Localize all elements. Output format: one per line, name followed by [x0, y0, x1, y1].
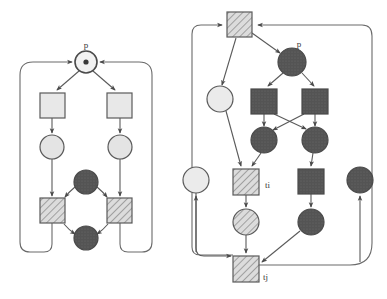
- transition-hatched-left[interactable]: [40, 198, 65, 223]
- edge-p-to-t-left: [57, 71, 79, 90]
- label-transition-tj: tj: [263, 272, 268, 282]
- edge-dark-lower-right-to-tj: [262, 231, 300, 262]
- place-light-left[interactable]: [40, 135, 64, 159]
- edge-dark-top-to-hatched-left: [65, 187, 75, 197]
- place-hatched-lower[interactable]: [233, 209, 259, 235]
- transition-hatched-right[interactable]: [107, 198, 132, 223]
- edge-hatched-right-to-dark-bottom: [97, 224, 108, 234]
- label-transition-ti: ti: [265, 180, 271, 190]
- left-petri-net: p: [20, 40, 152, 252]
- token-dot: [83, 59, 88, 64]
- transition-tj[interactable]: [233, 256, 259, 282]
- place-dark-lower-right[interactable]: [298, 209, 324, 235]
- figure-root: p: [0, 0, 387, 299]
- right-loop-left-rail: [192, 25, 233, 255]
- place-p-dark[interactable]: [278, 48, 306, 76]
- edge-p-to-dark-square-right: [302, 73, 314, 86]
- edge-top-transition-to-light-place: [222, 38, 236, 85]
- edge-p-to-t-right: [93, 71, 115, 90]
- edge-dark-mid-right-down: [311, 153, 313, 166]
- transition-light-right[interactable]: [107, 93, 132, 118]
- edge-p-to-dark-square-left: [268, 73, 283, 86]
- transition-dark-lower-right[interactable]: [298, 169, 324, 194]
- edge-hatched-left-to-dark-bottom: [64, 224, 75, 234]
- transition-hatched-top[interactable]: [227, 12, 252, 37]
- place-light-upper-left[interactable]: [207, 86, 233, 112]
- edge-dark-top-to-hatched-right: [97, 187, 107, 197]
- edge-top-transition-to-p: [252, 33, 280, 53]
- place-dark-mid-right[interactable]: [302, 127, 328, 153]
- place-dark-mid-left[interactable]: [251, 127, 277, 153]
- right-petri-net: p ti tj: [183, 12, 373, 282]
- place-dark-top[interactable]: [74, 170, 98, 194]
- place-dark-bottom[interactable]: [74, 226, 98, 250]
- edge-dark-mid-left-to-ti: [252, 153, 261, 166]
- edge-light-place-to-ti: [226, 111, 241, 166]
- place-dark-far-right[interactable]: [347, 167, 373, 193]
- place-light-right[interactable]: [108, 135, 132, 159]
- label-place-p-left: p: [84, 40, 89, 50]
- petri-net-figure: p: [0, 0, 387, 299]
- place-light-far-left[interactable]: [183, 167, 209, 193]
- edge-dark-square-right-cross-left: [273, 114, 304, 130]
- transition-dark-left[interactable]: [251, 89, 277, 114]
- transition-light-left[interactable]: [40, 93, 65, 118]
- label-place-p-right: p: [297, 39, 302, 49]
- transition-ti[interactable]: [233, 169, 259, 195]
- edge-far-left-place-loop: [196, 193, 231, 256]
- transition-dark-right[interactable]: [302, 89, 328, 114]
